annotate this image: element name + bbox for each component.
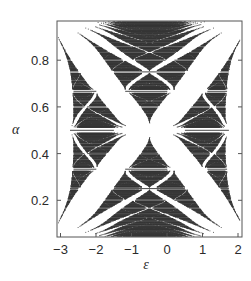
x-tick-label: 1 <box>199 242 206 257</box>
x-tick-label: −3 <box>53 242 68 257</box>
butterfly-spectrum-chart: −3−2−1012 0.20.40.60.8 α ε <box>0 0 251 281</box>
y-tick-label: 0.4 <box>31 147 49 162</box>
y-axis-label: α <box>12 122 20 137</box>
x-tick-label: −1 <box>124 242 139 257</box>
y-tick-label: 0.6 <box>31 100 49 115</box>
y-tick-label: 0.8 <box>31 53 49 68</box>
x-tick-label: 0 <box>163 242 170 257</box>
x-axis-label: ε <box>143 257 149 272</box>
x-tick-label: 2 <box>234 242 241 257</box>
x-tick-label: −2 <box>89 242 104 257</box>
y-tick-label: 0.2 <box>31 193 49 208</box>
